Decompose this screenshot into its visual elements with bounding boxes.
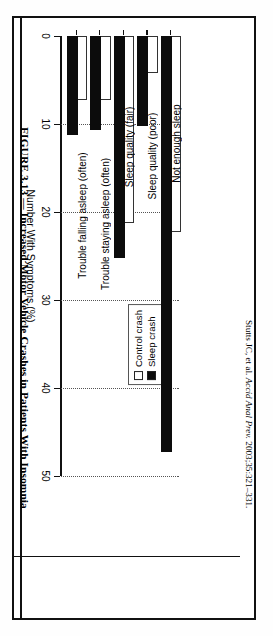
axis-tick-label: 20 — [40, 206, 51, 217]
bar-chart-plot: Number With Symptoms (%) Control crashSl… — [42, 36, 212, 536]
figure-page: FIGURE 3.13 — Increased Motor Vehicle Cr… — [0, 0, 273, 636]
axis-tick-label: 0 — [40, 33, 51, 39]
value-axis-line — [60, 36, 62, 476]
category-tick — [99, 30, 100, 35]
citation-rest: 2003;35:321–331. — [244, 439, 254, 508]
legend-item: Sleep crash — [146, 310, 157, 380]
bar-control-crash — [147, 36, 158, 73]
legend-item: Control crash — [133, 310, 144, 380]
citation: Stutts JC, et al. Accid Anal Prev. 2003;… — [244, 20, 254, 508]
citation-container: Stutts JC, et al. Accid Anal Prev. 2003;… — [240, 20, 258, 620]
axis-tick-label: 40 — [40, 382, 51, 393]
citation-author: Stutts JC, et al. — [244, 320, 254, 378]
citation-divider — [14, 556, 240, 557]
axis-tick — [54, 212, 60, 213]
legend-label: Control crash — [133, 310, 144, 367]
category-tick — [76, 30, 77, 35]
category-label: Sleep quality (fair) — [124, 107, 135, 188]
bar-sleep-crash — [90, 36, 101, 130]
category-label: Sleep quality (poor) — [147, 113, 158, 200]
legend-swatch-open — [134, 371, 143, 380]
bar-sleep-crash — [161, 36, 172, 452]
category-tick — [170, 30, 171, 35]
category-label: Trouble staying asleep (often) — [100, 158, 111, 290]
category-tick — [146, 30, 147, 35]
axis-tick — [54, 124, 60, 125]
axis-tick — [54, 300, 60, 301]
axis-tick-label: 30 — [40, 294, 51, 305]
axis-tick — [54, 476, 60, 477]
bar-control-crash — [100, 36, 111, 100]
chart-legend: Control crashSleep crash — [128, 304, 162, 385]
chart-container: Number With Symptoms (%) Control crashSl… — [42, 36, 212, 536]
gridline — [61, 476, 179, 477]
bar-sleep-crash — [67, 36, 78, 135]
category-tick — [123, 30, 124, 35]
legend-swatch-filled — [147, 371, 156, 380]
axis-tick — [54, 388, 60, 389]
value-axis-label: Number With Symptoms (%) — [25, 189, 37, 322]
category-label: Trouble falling asleep (often) — [77, 152, 88, 278]
category-label: Not enough sleep — [171, 104, 182, 182]
bar-control-crash — [76, 36, 87, 100]
axis-tick — [54, 36, 60, 37]
axis-tick-label: 10 — [40, 118, 51, 129]
legend-label: Sleep crash — [146, 317, 157, 368]
citation-journal: Accid Anal Prev. — [244, 378, 254, 439]
axis-tick-label: 50 — [40, 470, 51, 481]
